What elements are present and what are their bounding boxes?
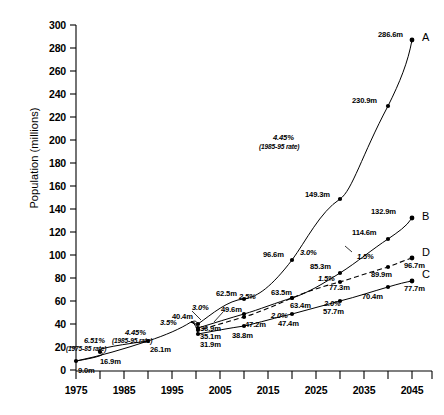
data-label-a-2015: 62.5m [216,289,237,298]
data-label-c-2005: 31.9m [200,340,221,349]
annotation-rate-6-51-sub: (1975-85 rate) [66,345,106,352]
data-label-b-2025: 63.5m [271,288,292,297]
series-label-a: A [422,31,429,43]
annotation-rate-3-5: 3.5% [160,318,177,327]
data-label-b-2035: 85.3m [310,262,331,271]
data-label-d-2035: 77.3m [329,283,350,292]
x-axis-ticks [76,371,432,379]
data-label-hist-1975: 9.0m [78,366,95,375]
data-label-c-2025: 47.4m [278,319,299,328]
data-label-b-2015: 49.6m [221,305,242,314]
annotation-rate-4-45-a: 4.45% [273,133,294,142]
data-label-d-2025: 63.4m [290,301,311,310]
data-label-b-end: 132.9m [371,207,396,216]
annotation-rate-1-5-right: 1.5% [357,252,374,261]
series-label-b: B [422,210,429,222]
data-label-c-end: 77.7m [404,284,425,293]
data-label-c-2035: 57.7m [323,307,344,316]
data-label-c-2015: 38.8m [232,331,253,340]
annotation-rate-1-5-mid: 1.5% [318,274,335,283]
annotation-rate-4-45-hist: 4.45% [125,328,146,337]
annotation-rate-4-45-a-sub: (1985-95 rate) [259,143,299,150]
annotation-rate-6-51: 6.51% [84,336,105,345]
annotation-rate-2-0-right: 2.0% [324,299,341,308]
data-label-c-2045: 70.4m [362,292,383,301]
data-label-a-2025: 96.6m [263,250,284,259]
annotation-rate-3-0-left: 3.0% [192,303,209,312]
data-label-hist-1985: 16.9m [100,357,121,366]
series-label-d: D [422,246,430,258]
population-projection-chart: Population (millions) 300 280 260 240 22… [0,0,444,415]
data-label-a-end: 286.6m [378,30,403,39]
annotation-rate-2-0-left: 2.0% [271,311,288,320]
data-label-a-2035: 149.3m [305,190,330,199]
data-label-hist-1995: 26.1m [150,345,171,354]
series-label-c: C [422,268,430,280]
annotation-rate-4-45-hist-sub: (1985-95 rate) [112,337,152,344]
data-label-b-2045: 114.6m [352,228,376,237]
data-point-markers [74,38,415,364]
data-label-d-2045: 89.9m [371,270,392,279]
annotation-rate-2-5: 2.5% [239,292,256,301]
series-a-line [191,40,412,324]
data-label-a-2045: 230.9m [352,96,377,105]
y-axis-ticks [70,25,76,370]
annotation-rate-3-0-right: 3.0% [300,248,317,257]
data-label-d-2015: 47.2m [245,320,266,329]
